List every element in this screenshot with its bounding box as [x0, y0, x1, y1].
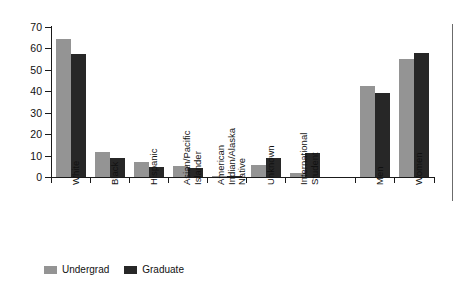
y-axis-tick: [45, 70, 51, 71]
x-axis-tick: [207, 178, 208, 183]
x-axis-tick: [129, 178, 130, 183]
y-axis-tick: [45, 156, 51, 157]
x-axis-tick: [285, 178, 286, 183]
x-axis-label-american-indian-alaska-native: AmericanIndian/AlaskaNative: [216, 128, 248, 185]
x-axis-label-white: White: [71, 161, 82, 185]
y-axis-tick: [45, 134, 51, 135]
bar-chart: 010203040506070 WhiteBlackHispanicAsian/…: [0, 0, 467, 283]
x-axis-tick: [90, 178, 91, 183]
y-axis-tick-label: 40: [0, 86, 42, 96]
x-axis-label-unknown: Unknown: [266, 145, 277, 185]
legend-item-undergrad[interactable]: Undergrad: [44, 264, 109, 275]
x-axis-label-line: Men: [375, 167, 386, 185]
bar-undergrad-white: [56, 39, 71, 177]
x-axis-label-international-student: InternationalStudent: [299, 133, 320, 185]
x-axis-label-line: Hispanic: [149, 149, 160, 185]
legend-swatch-undergrad: [44, 266, 57, 274]
bar-graduate-white: [71, 54, 86, 177]
x-axis-label-black: Black: [110, 162, 121, 185]
x-axis-tick: [394, 178, 395, 183]
x-axis-label-women: Women: [414, 152, 425, 185]
x-axis-tick: [355, 178, 356, 183]
x-axis-tick: [168, 178, 169, 183]
x-axis-label-asian-pacific-islander: Asian/PacificIslander: [182, 131, 203, 185]
bar-undergrad-men: [360, 86, 375, 177]
x-axis-label-line: Islander: [193, 131, 204, 185]
right-vertical-rule: [452, 24, 453, 201]
x-axis-label-line: Native: [237, 128, 248, 185]
y-axis-tick-label: 30: [0, 108, 42, 118]
bar-undergrad-unknown: [251, 165, 266, 177]
y-axis-tick-label: 20: [0, 129, 42, 139]
x-axis-tick: [434, 178, 435, 183]
legend-label-undergrad: Undergrad: [62, 264, 109, 275]
x-axis-label-line: White: [71, 161, 82, 185]
x-axis-label-line: Women: [414, 152, 425, 185]
y-axis-tick: [45, 27, 51, 28]
y-axis-tick: [45, 48, 51, 49]
x-axis-label-line: American: [216, 128, 227, 185]
y-axis-tick-label: 50: [0, 65, 42, 75]
x-axis-label-line: Unknown: [266, 145, 277, 185]
x-axis-tick: [51, 178, 52, 183]
bar-group: [95, 27, 125, 177]
y-axis-tick-label: 70: [0, 22, 42, 32]
y-axis-tick-label: 60: [0, 43, 42, 53]
y-axis-tick: [45, 113, 51, 114]
bar-undergrad-black: [95, 152, 110, 177]
y-axis-tick-label: 0: [0, 172, 42, 182]
x-axis-label-line: Black: [110, 162, 121, 185]
legend-item-graduate[interactable]: Graduate: [124, 264, 184, 275]
x-axis-label-hispanic: Hispanic: [149, 149, 160, 185]
bar-graduate-men: [375, 93, 390, 177]
x-axis-label-men: Men: [375, 167, 386, 185]
y-axis-tick: [45, 91, 51, 92]
bar-undergrad-women: [399, 59, 414, 177]
chart-legend: UndergradGraduate: [44, 264, 184, 275]
bar-group: [360, 27, 390, 177]
legend-label-graduate: Graduate: [142, 264, 184, 275]
bar-undergrad-hispanic: [134, 162, 149, 177]
x-axis-label-line: Student: [310, 133, 321, 185]
bar-group: [56, 27, 86, 177]
legend-swatch-graduate: [124, 266, 137, 274]
y-axis-tick-label: 10: [0, 151, 42, 161]
